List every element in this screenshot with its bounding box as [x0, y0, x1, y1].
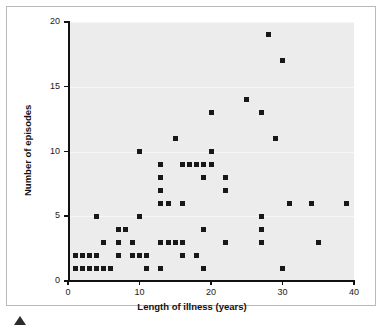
x-axis-tick-label: 10 — [125, 288, 155, 297]
scatter-point — [309, 201, 314, 206]
x-axis-tick — [139, 281, 141, 285]
scatter-point — [209, 110, 214, 115]
gridline-y — [68, 22, 354, 23]
scatter-point — [130, 253, 135, 258]
scatter-point — [166, 201, 171, 206]
scatter-point — [137, 253, 142, 258]
scatter-point — [244, 97, 249, 102]
scatter-point — [87, 266, 92, 271]
scatter-point — [116, 240, 121, 245]
scatter-point — [259, 240, 264, 245]
scatter-point — [201, 175, 206, 180]
x-axis-tick-label: 0 — [53, 288, 83, 297]
scatter-point — [158, 188, 163, 193]
y-axis-tick — [64, 151, 68, 153]
scatter-point — [144, 253, 149, 258]
scatter-point — [94, 253, 99, 258]
scatter-point — [116, 253, 121, 258]
y-axis-tick-label: 5 — [32, 211, 60, 220]
scatter-point — [287, 201, 292, 206]
y-axis-tick — [64, 21, 68, 23]
scatter-point — [80, 253, 85, 258]
scatter-point — [201, 162, 206, 167]
scatter-point — [166, 240, 171, 245]
scatter-point — [173, 136, 178, 141]
scatter-point — [173, 240, 178, 245]
scatter-point — [223, 188, 228, 193]
y-axis-tick-label: 10 — [32, 147, 60, 156]
y-axis-tick — [64, 215, 68, 217]
scatter-point — [259, 227, 264, 232]
scatter-point — [116, 227, 121, 232]
triangle-marker-icon — [14, 316, 26, 325]
scatter-point — [180, 240, 185, 245]
y-axis-tick — [64, 86, 68, 88]
scatter-point — [144, 266, 149, 271]
scatter-point — [158, 201, 163, 206]
scatter-point — [344, 201, 349, 206]
scatter-point — [223, 175, 228, 180]
y-axis-tick-label: 0 — [32, 276, 60, 285]
scatter-point — [80, 266, 85, 271]
x-axis-title: Length of illness (years) — [0, 301, 384, 312]
scatter-point — [259, 214, 264, 219]
scatter-point — [73, 253, 78, 258]
scatter-point — [209, 162, 214, 167]
scatter-point — [280, 58, 285, 63]
scatter-point — [101, 240, 106, 245]
scatter-point — [87, 253, 92, 258]
scatter-point — [201, 266, 206, 271]
x-axis-tick-label: 20 — [196, 288, 226, 297]
scatter-point — [259, 110, 264, 115]
scatter-point — [194, 253, 199, 258]
scatter-point — [223, 240, 228, 245]
scatter-point — [194, 162, 199, 167]
x-axis-tick — [67, 281, 69, 285]
x-axis-tick — [282, 281, 284, 285]
scatter-point — [158, 162, 163, 167]
gridline-y — [68, 87, 354, 88]
y-axis-tick-label: 20 — [32, 17, 60, 26]
scatter-point — [158, 266, 163, 271]
y-axis-line — [68, 21, 70, 282]
scatter-point — [123, 227, 128, 232]
figure-container: Number of episodes Length of illness (ye… — [0, 0, 384, 336]
x-axis-tick-label: 40 — [339, 288, 369, 297]
scatter-point — [180, 201, 185, 206]
scatter-point — [94, 214, 99, 219]
scatter-point — [101, 266, 106, 271]
x-axis-tick-label: 30 — [268, 288, 298, 297]
x-axis-tick — [210, 281, 212, 285]
scatter-point — [94, 266, 99, 271]
scatter-point — [180, 162, 185, 167]
scatter-point — [280, 266, 285, 271]
scatter-point — [266, 32, 271, 37]
scatter-point — [187, 162, 192, 167]
scatter-point — [158, 240, 163, 245]
scatter-point — [180, 253, 185, 258]
scatter-point — [137, 214, 142, 219]
scatter-point — [273, 136, 278, 141]
scatter-point — [108, 266, 113, 271]
x-axis-tick — [353, 281, 355, 285]
gridline-y — [68, 216, 354, 217]
scatter-point — [201, 227, 206, 232]
scatter-point — [137, 149, 142, 154]
scatter-point — [158, 175, 163, 180]
scatter-point — [73, 266, 78, 271]
scatter-point — [130, 240, 135, 245]
scatter-point — [316, 240, 321, 245]
y-axis-tick-label: 15 — [32, 82, 60, 91]
scatter-point — [209, 149, 214, 154]
